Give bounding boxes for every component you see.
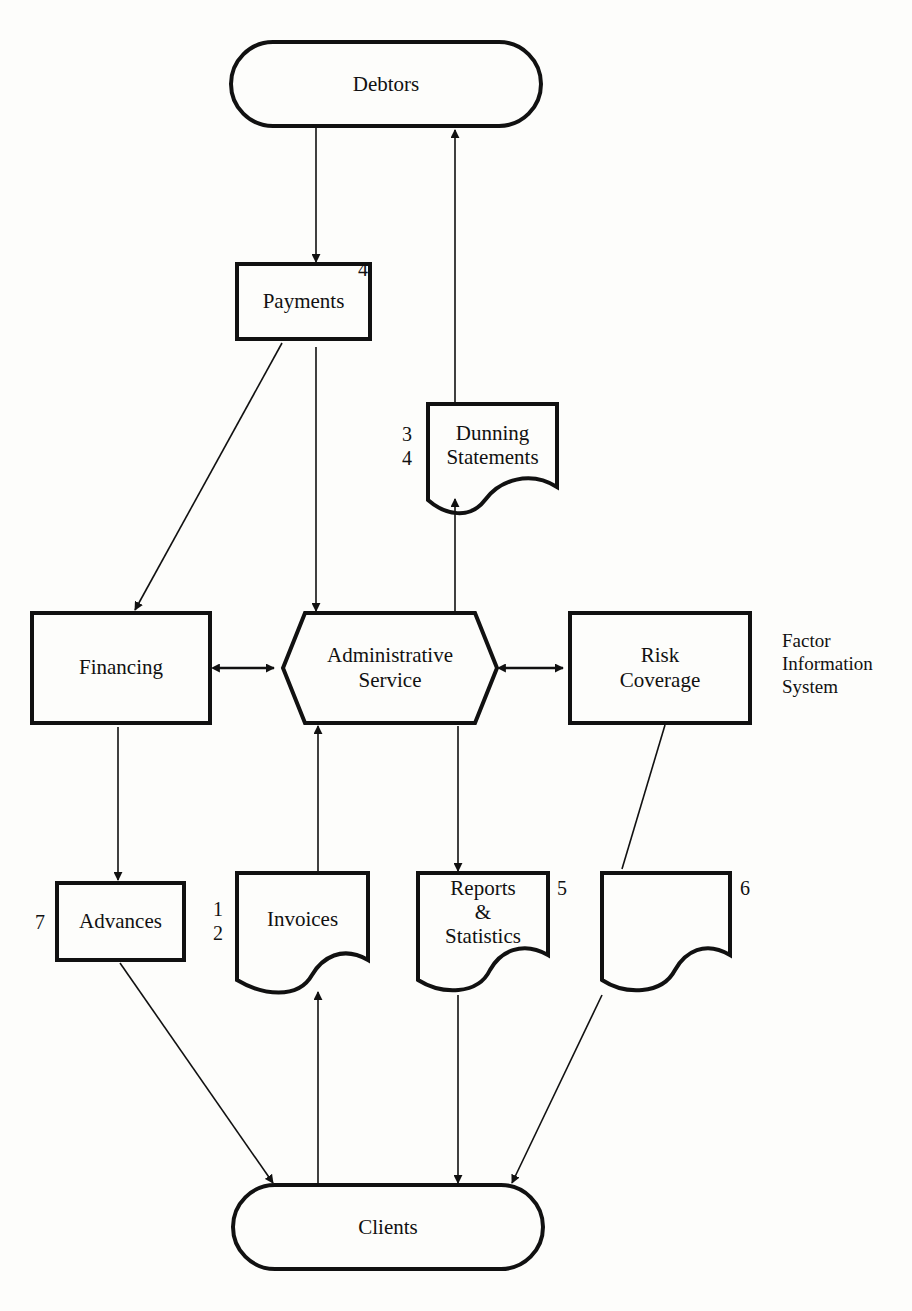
financing-label: Financing — [32, 655, 210, 680]
factor-information-system-line3: System — [782, 676, 838, 698]
dunning-label-line1: Dunning — [428, 421, 557, 446]
reports-label-line1: Reports — [418, 876, 548, 901]
blank-document-number: 6 — [740, 876, 750, 900]
edge-payments-to-financing — [135, 343, 282, 610]
reports-label-line2: & — [418, 900, 548, 925]
payments-label: Payments — [237, 289, 370, 314]
invoices-number-1: 1 — [213, 897, 223, 921]
reports-number: 5 — [557, 876, 567, 900]
invoices-label: Invoices — [237, 907, 368, 932]
reports-label-line3: Statistics — [418, 924, 548, 949]
advances-label: Advances — [57, 909, 184, 934]
debtors-label: Debtors — [231, 72, 541, 97]
admin-label-line1: Administrative — [283, 643, 497, 668]
edge-blank-doc-to-clients — [512, 995, 602, 1183]
factoring-data-flow-diagram: Debtors Payments 4 Dunning Statements 3 … — [0, 0, 912, 1311]
risk-label-line1: Risk — [570, 643, 750, 668]
dunning-number-2: 4 — [402, 446, 412, 470]
blank-document-shape — [602, 873, 730, 990]
dunning-number-1: 3 — [402, 422, 412, 446]
edge-advances-to-clients — [120, 963, 273, 1183]
advances-number: 7 — [35, 910, 45, 934]
admin-label-line2: Service — [283, 668, 497, 693]
risk-label-line2: Coverage — [570, 668, 750, 693]
clients-label: Clients — [233, 1215, 543, 1240]
payments-number: 4 — [358, 257, 368, 281]
invoices-number-2: 2 — [213, 921, 223, 945]
factor-information-system-line2: Information — [782, 653, 873, 675]
invoices-document-shape — [237, 873, 368, 993]
dunning-label-line2: Statements — [428, 445, 557, 470]
factor-information-system-line1: Factor — [782, 630, 831, 652]
edge-risk-to-blank-doc — [622, 725, 665, 869]
